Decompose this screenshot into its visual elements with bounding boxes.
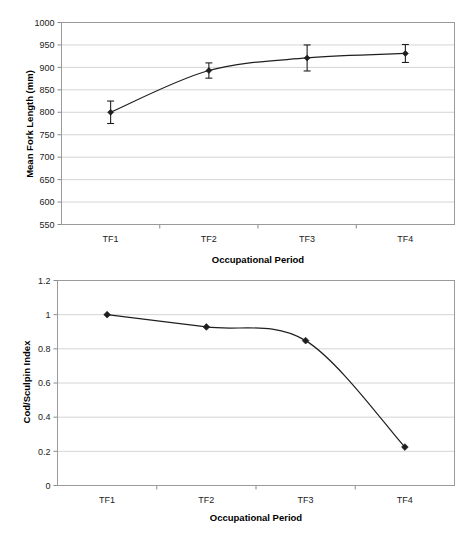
y-axis-title-top-text: Mean Fork Length (mm) [24, 70, 35, 178]
x-category-label: TF1 [99, 495, 115, 505]
y-tick-label: 0.6 [38, 378, 51, 388]
y-axis-title-bottom-text: Cod/Sculpin Index [21, 340, 32, 424]
x-category-label: TF3 [299, 234, 315, 244]
plot-frame-top [62, 23, 455, 225]
x-category-label: TF2 [201, 234, 217, 244]
x-category-labels-top: TF1TF2TF3TF4 [103, 234, 414, 244]
y-tick-label: 700 [39, 152, 54, 162]
data-point-marker [206, 68, 212, 74]
x-axis-title-bottom: Occupational Period [210, 512, 303, 523]
data-point-marker [302, 337, 309, 344]
series-top [107, 44, 409, 123]
series-bottom [104, 311, 409, 450]
data-point-marker [203, 324, 210, 331]
y-tick-labels-bottom: 00.20.40.60.811.2 [38, 276, 51, 491]
chart-cod-sculpin-index: Cod/Sculpin Index 00.20.40.60.811.2 TF1T… [0, 270, 471, 539]
gridlines-bottom [54, 281, 455, 490]
y-tick-label: 1.2 [38, 276, 51, 286]
x-category-label: TF4 [397, 234, 413, 244]
chart-mean-fork-length: Mean Fork Length (mm) 550600650700750800… [0, 0, 471, 270]
y-tick-label: 900 [39, 63, 54, 73]
x-category-label: TF1 [103, 234, 119, 244]
x-category-label: TF2 [198, 495, 214, 505]
y-axis-title-top: Mean Fork Length (mm) [24, 70, 35, 178]
y-tick-label: 550 [39, 220, 54, 230]
y-tick-label: 1000 [34, 18, 54, 28]
series-line [111, 53, 406, 112]
y-tick-label: 0 [45, 481, 50, 491]
cod-sculpin-index-plot: Cod/Sculpin Index 00.20.40.60.811.2 TF1T… [0, 270, 471, 539]
y-tick-label: 0.2 [38, 447, 51, 457]
data-point-marker [108, 109, 114, 115]
x-category-labels-bottom: TF1TF2TF3TF4 [99, 495, 413, 505]
y-tick-label: 950 [39, 40, 54, 50]
x-category-label: TF4 [397, 495, 413, 505]
y-tick-label: 1 [45, 310, 50, 320]
y-tick-label: 0.8 [38, 344, 51, 354]
series-line [107, 315, 405, 447]
y-axis-title-bottom: Cod/Sculpin Index [21, 340, 32, 424]
data-point-marker [402, 50, 408, 56]
y-tick-label: 600 [39, 197, 54, 207]
x-category-label: TF3 [298, 495, 314, 505]
y-tick-label: 0.4 [38, 412, 51, 422]
cut-off-caption-strip [0, 528, 471, 539]
y-tick-label: 850 [39, 85, 54, 95]
data-point-marker [104, 311, 111, 318]
data-point-marker [304, 55, 310, 61]
y-tick-labels-top: 5506006507007508008509009501000 [34, 18, 54, 230]
y-tick-label: 650 [39, 175, 54, 185]
y-tick-label: 750 [39, 130, 54, 140]
y-tick-label: 800 [39, 107, 54, 117]
x-axis-title-top: Occupational Period [212, 254, 305, 265]
mean-fork-length-plot: Mean Fork Length (mm) 550600650700750800… [0, 0, 471, 270]
